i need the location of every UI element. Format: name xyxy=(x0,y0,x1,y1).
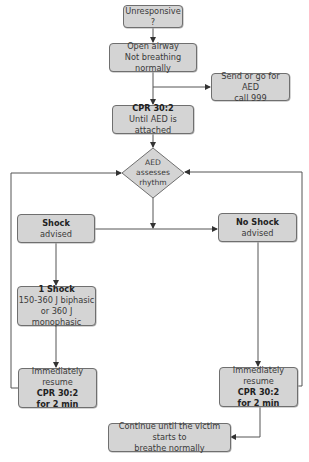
node-title: for 2 min xyxy=(238,398,280,409)
node-title: CPR 30:2 xyxy=(238,387,280,398)
node-resume-cpr-right: Immediately resume CPR 30:2 for 2 min xyxy=(219,367,298,407)
node-title: 1 Shock xyxy=(38,284,74,295)
node-send-aed: Send or go for AED call 999 xyxy=(211,73,290,101)
node-aed-assesses: AED assesses rhythm xyxy=(128,158,178,188)
node-label: advised xyxy=(40,229,72,240)
node-label: AED xyxy=(128,158,178,168)
node-title: Shock xyxy=(42,218,70,229)
node-resume-cpr-left: Immediately resume CPR 30:2 for 2 min xyxy=(18,368,97,408)
node-label: advised xyxy=(242,228,274,239)
node-label: Immediately resume xyxy=(19,366,96,388)
node-label: Continue until the victim starts to xyxy=(109,421,230,443)
node-label: Immediately resume xyxy=(220,365,297,387)
node-label: 150-360 J biphasic xyxy=(19,295,95,306)
node-label: or 360 J monophasic xyxy=(18,306,95,328)
node-label: Open airway xyxy=(127,41,179,52)
node-title: CPR 30:2 xyxy=(37,388,79,399)
node-no-shock-advised: No Shock advised xyxy=(218,213,297,242)
node-continue: Continue until the victim starts to brea… xyxy=(108,423,231,452)
node-label: assesses xyxy=(128,168,178,178)
node-title: CPR 30:2 xyxy=(132,103,174,114)
node-unresponsive: Unresponsive ? xyxy=(123,5,183,28)
node-label: Until AED is attached xyxy=(113,114,193,136)
node-label: Unresponsive ? xyxy=(124,6,182,28)
node-label: Not breathing normally xyxy=(110,52,196,74)
node-label: breathe normally xyxy=(134,443,204,454)
node-title: No Shock xyxy=(236,217,279,228)
node-title: for 2 min xyxy=(37,399,79,410)
node-shock-advised: Shock advised xyxy=(17,214,95,243)
node-one-shock: 1 Shock 150-360 J biphasic or 360 J mono… xyxy=(17,286,96,326)
node-label: rhythm xyxy=(128,178,178,188)
node-label: call 999 xyxy=(234,93,266,104)
node-open-airway: Open airway Not breathing normally xyxy=(109,43,197,72)
node-label: Send or go for AED xyxy=(212,71,289,93)
node-cpr-until-aed: CPR 30:2 Until AED is attached xyxy=(112,105,194,134)
